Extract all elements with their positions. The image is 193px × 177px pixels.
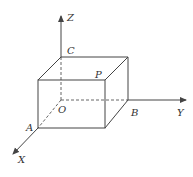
label-o: O [58, 104, 66, 115]
hidden-edges [38, 57, 128, 128]
coordinate-box-diagram: Z Y X C P O B A [0, 0, 193, 177]
label-a: A [25, 122, 33, 133]
label-p: P [94, 69, 102, 80]
label-b: B [130, 107, 138, 118]
label-x: X [17, 154, 26, 165]
box-edges [38, 57, 128, 128]
label-y: Y [177, 107, 185, 118]
label-c: C [67, 45, 75, 56]
label-z: Z [66, 12, 75, 23]
